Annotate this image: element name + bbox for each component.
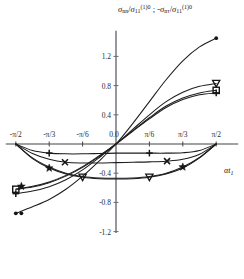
y-tick-label: -0.8 — [0, 198, 111, 207]
x-tick-label: π/2 — [211, 130, 221, 139]
x-tick-label: π/3 — [178, 130, 188, 139]
y-tick-label: 1.2 — [0, 52, 111, 61]
y-tick-label: -1.2 — [0, 227, 111, 236]
plot-area — [0, 0, 244, 279]
marker-dot — [214, 36, 218, 40]
x-tick-label: -π/3 — [43, 130, 55, 139]
marker-plus — [12, 190, 19, 197]
marker-plus — [46, 150, 53, 157]
marker-plus — [146, 150, 153, 157]
x-tick-label: -π/6 — [77, 130, 89, 139]
x-tick-label: 0.0 — [109, 130, 118, 139]
y-tick-label: -0.4 — [0, 169, 111, 178]
marker-dot — [19, 211, 23, 215]
y-tick-label: 0.8 — [0, 81, 111, 90]
figure-container: σnn/σ11(1)0 ; -σnτ/σ11(1)0 αt1 -π/2-π/3-… — [0, 0, 244, 279]
x-tick-label: -π/2 — [10, 130, 22, 139]
y-tick-label: 0.4 — [0, 110, 111, 119]
marker-dot — [14, 211, 18, 215]
x-tick-label: π/6 — [145, 130, 155, 139]
